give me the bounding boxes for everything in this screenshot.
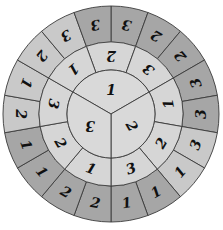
inner-ring-label: 3 (85, 118, 95, 134)
number-wheel-diagram: 322333111221121233 231231231 123 (0, 0, 223, 230)
inner-ring: 123 (67, 70, 155, 158)
outer-ring-label: 2 (13, 108, 29, 119)
inner-ring-label: 1 (106, 82, 116, 98)
outer-ring-label: 3 (193, 109, 209, 119)
middle-ring-label: 2 (106, 48, 117, 64)
